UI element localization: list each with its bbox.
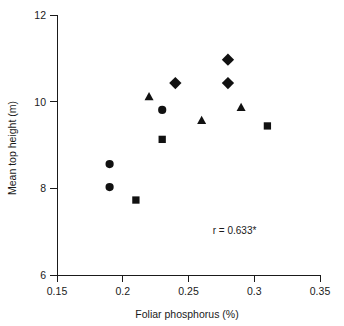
- data-point-square: [132, 196, 139, 203]
- data-markers-group: [106, 53, 272, 203]
- data-point-circle: [106, 160, 114, 168]
- data-point-circle: [106, 183, 114, 191]
- tick-labels-group: 6810120.150.20.250.30.35: [34, 9, 330, 297]
- y-axis-title: Mean top height (m): [6, 101, 18, 195]
- x-axis-title: Foliar phosphorus (%): [135, 308, 238, 320]
- y-tick-label: 8: [40, 182, 46, 194]
- data-point-triangle: [145, 92, 154, 100]
- axes-group: [50, 15, 320, 282]
- x-tick-label: 0.35: [310, 285, 331, 297]
- data-point-triangle: [197, 116, 206, 124]
- data-point-triangle: [237, 103, 246, 111]
- y-tick-label: 10: [34, 96, 46, 108]
- data-point-circle: [158, 106, 166, 114]
- data-point-square: [159, 136, 166, 143]
- scatter-plot-figure: 6810120.150.20.250.30.35 r = 0.633* Foli…: [0, 0, 344, 326]
- x-tick-label: 0.25: [178, 285, 199, 297]
- correlation-annotation: r = 0.633*: [213, 225, 257, 236]
- annotations-group: r = 0.633*: [213, 225, 257, 236]
- data-point-diamond: [169, 77, 181, 89]
- data-point-square: [264, 122, 271, 129]
- y-tick-label: 12: [34, 9, 46, 21]
- x-tick-label: 0.2: [115, 285, 130, 297]
- plot-canvas: 6810120.150.20.250.30.35 r = 0.633* Foli…: [0, 0, 344, 326]
- x-tick-label: 0.15: [47, 285, 68, 297]
- data-point-diamond: [222, 77, 234, 89]
- y-tick-label: 6: [40, 269, 46, 281]
- data-point-diamond: [222, 53, 234, 65]
- x-tick-label: 0.3: [247, 285, 262, 297]
